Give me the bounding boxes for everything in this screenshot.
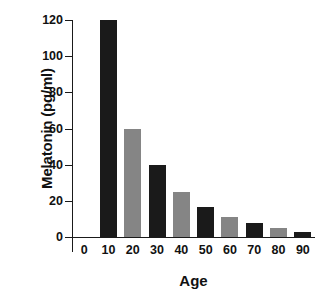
bar	[124, 129, 141, 238]
y-tick-mark	[65, 56, 72, 57]
melatonin-vs-age-bar-chart: Melatonin (pg/ml) 020406080100120 010203…	[0, 0, 325, 306]
bar	[173, 192, 190, 237]
bar	[197, 207, 214, 237]
y-tick-label: 120	[42, 13, 63, 27]
plot-area: 020406080100120	[72, 20, 315, 237]
x-tick-label: 20	[126, 243, 140, 257]
x-axis-line	[72, 237, 315, 238]
x-tick-label: 50	[199, 243, 213, 257]
x-tick-label: 10	[101, 243, 115, 257]
y-tick-mark	[65, 165, 72, 166]
bar	[100, 20, 117, 237]
x-axis-ticks: 0102030405060708090	[72, 243, 315, 261]
x-tick-label: 30	[150, 243, 164, 257]
y-tick-label: 40	[49, 158, 63, 172]
y-tick-mark	[65, 237, 72, 238]
bar	[246, 223, 263, 237]
y-tick-label: 100	[42, 49, 63, 63]
x-tick-label: 0	[81, 243, 88, 257]
x-tick-label: 90	[296, 243, 310, 257]
x-tick-label: 60	[223, 243, 237, 257]
y-tick-label: 80	[49, 85, 63, 99]
x-tick-label: 70	[247, 243, 261, 257]
y-tick-label: 20	[49, 194, 63, 208]
y-axis-line	[72, 20, 73, 252]
y-tick-label: 0	[56, 230, 63, 244]
y-tick-mark	[65, 20, 72, 21]
x-tick-label: 40	[174, 243, 188, 257]
y-tick-mark	[65, 201, 72, 202]
x-axis-label: Age	[72, 272, 315, 289]
bar	[270, 228, 287, 237]
y-tick-mark	[65, 129, 72, 130]
y-tick-mark	[65, 92, 72, 93]
bar	[221, 217, 238, 237]
x-tick-label: 80	[272, 243, 286, 257]
y-tick-label: 60	[49, 122, 63, 136]
bar	[294, 232, 311, 237]
bar	[149, 165, 166, 237]
